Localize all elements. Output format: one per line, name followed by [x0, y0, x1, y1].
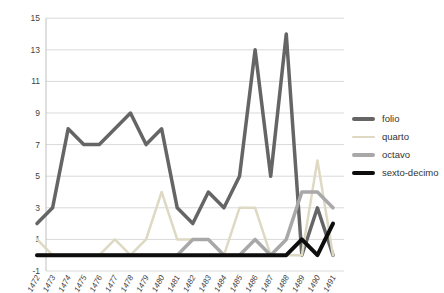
x-axis-tick-label: 1480 — [150, 273, 167, 293]
legend-label: octavo — [382, 148, 410, 162]
x-axis-tick-label: 1482 — [181, 273, 198, 293]
y-axis-tick-label: 7 — [35, 140, 40, 150]
chart-canvas: -113579111315147214731474147514761477147… — [0, 0, 444, 293]
series-line-octavo — [37, 192, 333, 255]
legend-label: quarto — [382, 130, 409, 144]
x-axis-tick-label: 1479 — [135, 273, 152, 293]
legend-swatch-folio — [352, 117, 375, 121]
x-axis-tick-label: 1477 — [103, 273, 120, 293]
legend-label: sexto-decimo — [382, 166, 439, 180]
x-axis-tick-label: 1488 — [275, 273, 292, 293]
chart-legend: folioquartooctavosexto-decimo — [352, 112, 439, 180]
x-axis-tick-label: 1483 — [197, 273, 214, 293]
legend-swatch-sexto-decimo — [352, 171, 375, 175]
x-axis-tick-label: 1473 — [41, 273, 58, 293]
x-axis-tick-label: 1486 — [244, 273, 261, 293]
x-axis-tick-label: 1474 — [57, 273, 74, 293]
y-axis-tick-label: 11 — [31, 76, 40, 86]
x-axis-tick-label: 1476 — [88, 273, 105, 293]
legend-swatch-quarto — [352, 136, 375, 139]
legend-item-sexto-decimo: sexto-decimo — [352, 166, 439, 180]
legend-swatch-octavo — [352, 153, 375, 157]
y-axis-tick-label: 15 — [31, 13, 41, 23]
x-axis-tick-label: 1487 — [259, 273, 276, 293]
x-axis-tick-label: 1472 — [25, 273, 42, 293]
legend-item-octavo: octavo — [352, 148, 439, 162]
x-axis-tick-label: 1490 — [306, 273, 323, 293]
legend-item-quarto: quarto — [352, 130, 439, 144]
legend-label: folio — [382, 112, 399, 126]
y-axis-tick-label: 9 — [35, 108, 40, 118]
y-axis-tick-label: 5 — [35, 171, 40, 181]
legend-item-folio: folio — [352, 112, 439, 126]
x-axis-tick-label: 1485 — [228, 273, 245, 293]
x-axis-tick-label: 1481 — [166, 274, 182, 293]
y-axis-tick-label: 13 — [31, 45, 41, 55]
x-axis-tick-label: 1489 — [290, 273, 307, 293]
x-axis-tick-label: 1491 — [321, 274, 337, 293]
x-axis-tick-label: 1484 — [212, 273, 229, 293]
x-axis-tick-label: 1478 — [119, 273, 136, 293]
y-axis-tick-label: 3 — [35, 203, 40, 213]
x-axis-tick-label: 1475 — [72, 273, 89, 293]
